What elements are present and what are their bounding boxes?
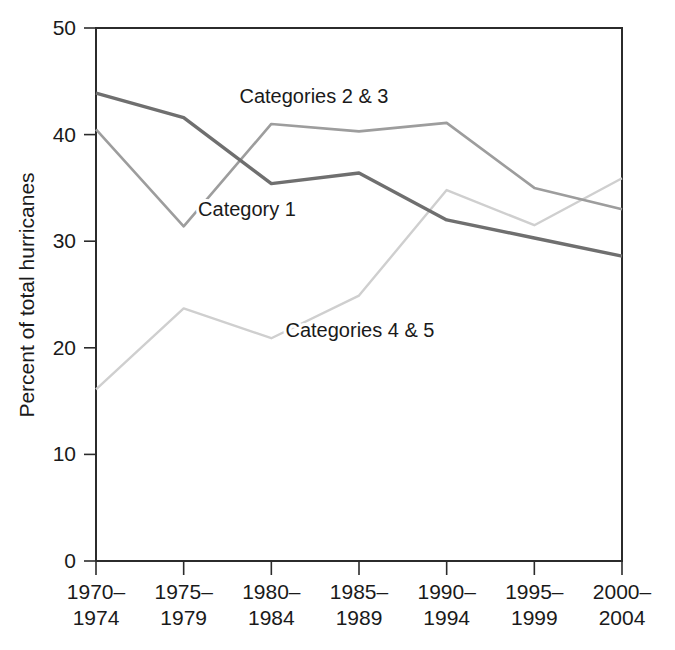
x-tick-label-1975–1979: 1975–1979: [154, 580, 213, 629]
x-tick-label-1980–1984: 1980–1984: [242, 580, 301, 629]
series-group: [96, 93, 622, 389]
x-tick-label-1995–1999: 1995–1999: [505, 580, 564, 629]
x-tick-label-1985–1989: 1985–1989: [330, 580, 389, 629]
series-annotation-categories-4-5: Categories 4 & 5: [286, 319, 435, 341]
series-line-categories-4-5: [96, 178, 622, 389]
y-axis-title: Percent of total hurricanes: [15, 172, 38, 417]
y-tick-label-40: 40: [53, 123, 76, 146]
x-tick-label-1990–1994: 1990–1994: [417, 580, 476, 629]
y-axis-tick-labels: 01020304050: [53, 16, 76, 572]
x-axis-tick-labels: 1970–19741975–19791980–19841985–19891990…: [67, 580, 652, 629]
y-tick-label-20: 20: [53, 336, 76, 359]
series-annotation-categories-2-3: Categories 2 & 3: [240, 85, 389, 107]
x-tick-label-1970–1974: 1970–1974: [67, 580, 126, 629]
series-annotations: Categories 2 & 3Categories 2 & 3Category…: [198, 85, 434, 341]
x-axis-ticks: [96, 561, 622, 575]
y-tick-label-30: 30: [53, 229, 76, 252]
chart-canvas: 01020304050 1970–19741975–19791980–19841…: [0, 0, 675, 650]
y-axis-ticks: [84, 28, 96, 561]
y-tick-label-10: 10: [53, 442, 76, 465]
hurricane-category-line-chart: 01020304050 1970–19741975–19791980–19841…: [0, 0, 675, 650]
y-tick-label-50: 50: [53, 16, 76, 39]
series-line-category-1: [96, 93, 622, 256]
x-tick-label-2000–2004: 2000–2004: [593, 580, 652, 629]
series-annotation-category-1: Category 1: [198, 198, 296, 220]
y-tick-label-0: 0: [64, 549, 76, 572]
